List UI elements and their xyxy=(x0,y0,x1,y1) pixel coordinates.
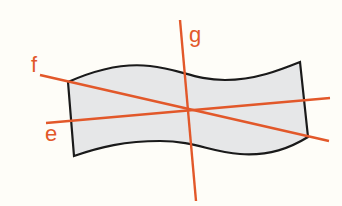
label-e: e xyxy=(45,123,57,145)
diagram-svg xyxy=(0,0,342,206)
diagram-canvas: f e g xyxy=(0,0,342,206)
label-f: f xyxy=(31,54,37,76)
label-g: g xyxy=(189,24,201,46)
